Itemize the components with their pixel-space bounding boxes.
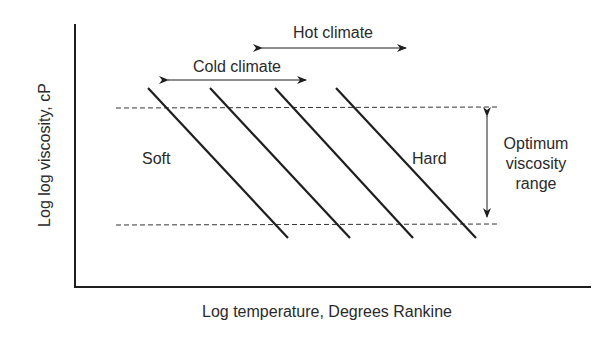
grade-line-2 xyxy=(210,88,350,238)
y-axis-label: Log log viscosity, cP xyxy=(36,83,53,227)
upper-bound-dashed-line xyxy=(116,107,500,108)
grade-line-4 xyxy=(336,88,476,238)
optimum-label-line3: range xyxy=(516,175,557,192)
optimum-label-line1: Optimum xyxy=(504,135,569,152)
viscosity-temperature-diagram: Hot climate Cold climate Soft Hard Optim… xyxy=(0,0,612,339)
soft-label: Soft xyxy=(142,150,171,167)
grade-line-3 xyxy=(275,88,413,238)
hot-climate-label: Hot climate xyxy=(293,24,373,41)
x-axis-label: Log temperature, Degrees Rankine xyxy=(202,303,452,320)
lower-bound-dashed-line xyxy=(116,224,500,225)
hard-label: Hard xyxy=(412,150,447,167)
optimum-label-line2: viscosity xyxy=(506,155,566,172)
cold-climate-label: Cold climate xyxy=(193,58,281,75)
